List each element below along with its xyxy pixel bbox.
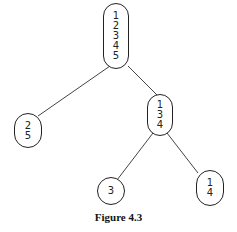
edge-right-rightleft [117,133,153,180]
tree-node-right: 1 3 4 [147,94,173,136]
node-value: 2 [25,121,31,131]
edge-root-right [128,66,158,96]
tree-node-right-right: 1 4 [196,170,224,206]
node-value: 4 [157,120,163,130]
node-value: 3 [108,186,114,196]
node-value: 4 [207,188,213,198]
node-value: 5 [25,131,31,141]
figure-caption: Figure 4.3 [0,211,237,223]
tree-node-right-left: 3 [97,177,125,205]
node-value: 5 [113,51,119,61]
edge-root-left [38,66,110,116]
edge-right-rightright [167,133,198,173]
tree-node-left: 2 5 [14,113,42,148]
tree-node-root: 1 2 3 4 5 [103,3,129,69]
